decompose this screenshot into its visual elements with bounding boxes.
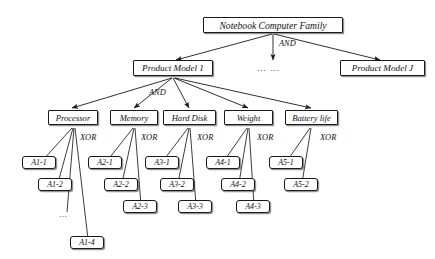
node-product-model-ellipsis: … … xyxy=(257,63,280,73)
leaf-a1-2[interactable]: A1-2 xyxy=(38,178,72,191)
node-processor[interactable]: Processor xyxy=(48,110,98,125)
op-label-root-and: AND xyxy=(279,39,296,48)
node-product-model-j[interactable]: Product Model J xyxy=(340,60,425,76)
leaf-a1-1[interactable]: A1-1 xyxy=(22,156,56,169)
op-label-processor-xor: XOR xyxy=(80,133,96,142)
node-weight[interactable]: Weight xyxy=(224,110,273,125)
model-to-features-edges xyxy=(72,78,311,108)
root-to-models-edges xyxy=(176,34,380,60)
leaf-a3-2[interactable]: A3-2 xyxy=(160,178,194,191)
node-hard-disk[interactable]: Hard Disk xyxy=(163,110,216,125)
node-battery-life[interactable]: Battery life xyxy=(285,110,338,125)
leaf-a2-2[interactable]: A2-2 xyxy=(104,178,138,191)
op-label-model-and: AND xyxy=(149,88,166,97)
op-label-battery-life-xor: XOR xyxy=(320,133,336,142)
node-product-model-1[interactable]: Product Model 1 xyxy=(133,60,213,76)
leaf-a2-3[interactable]: A2-3 xyxy=(123,200,157,213)
op-label-hard-disk-xor: XOR xyxy=(197,133,213,142)
leaf-a4-1[interactable]: A4-1 xyxy=(206,156,240,169)
leaf-a1-4[interactable]: A1-4 xyxy=(70,236,104,249)
connector-layer xyxy=(0,0,435,259)
leaf-a1-ellipsis: … xyxy=(59,210,68,219)
leaf-a5-1[interactable]: A5-1 xyxy=(269,156,303,169)
node-memory[interactable]: Memory xyxy=(110,110,158,125)
leaf-a2-1[interactable]: A2-1 xyxy=(88,156,122,169)
leaf-a5-2[interactable]: A5-2 xyxy=(284,178,318,191)
leaf-a4-2[interactable]: A4-2 xyxy=(221,178,255,191)
feature-tree-diagram: Notebook Computer Family AND Product Mod… xyxy=(0,0,435,259)
leaf-a3-1[interactable]: A3-1 xyxy=(145,156,179,169)
op-label-weight-xor: XOR xyxy=(257,133,273,142)
leaf-a3-3[interactable]: A3-3 xyxy=(178,200,212,213)
node-notebook-computer-family[interactable]: Notebook Computer Family xyxy=(203,17,343,33)
op-label-memory-xor: XOR xyxy=(141,133,157,142)
leaf-a4-3[interactable]: A4-3 xyxy=(236,200,270,213)
